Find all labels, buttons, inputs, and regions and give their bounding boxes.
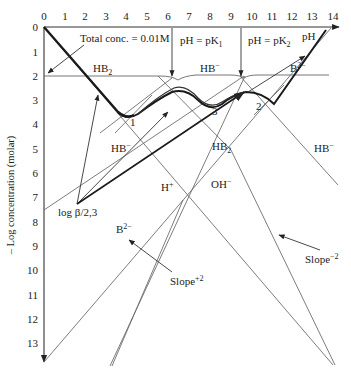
- y-axis-title: – Log concentration (molar): [5, 135, 17, 255]
- point-2-label: 2: [256, 100, 262, 112]
- x-tick: 7: [186, 10, 192, 22]
- y-tick: 0: [33, 21, 39, 33]
- x-tick: 11: [267, 10, 278, 22]
- hb2-mid-label: HB2: [212, 140, 231, 155]
- y-tick: 11: [27, 289, 38, 301]
- x-tick: 10: [247, 10, 259, 22]
- point-1-label: 1: [130, 116, 136, 128]
- y-tick: 5: [33, 143, 39, 155]
- slope-neg-label: Slope−2: [305, 252, 339, 265]
- y-tick: 1: [33, 46, 39, 58]
- x-tick: 9: [228, 10, 234, 22]
- x-tick: 2: [82, 10, 88, 22]
- hb2-line: [158, 76, 231, 150]
- slope-pos-label: Slope+2: [170, 274, 204, 287]
- log-concentration-diagram: 0 1 2 3 4 5 6 7 8 9 10 11 12 13 14 0 1 2…: [0, 0, 351, 376]
- hb-minus-top-label: HB−: [200, 61, 220, 74]
- y-tick: 13: [27, 337, 39, 349]
- y-tick: 4: [33, 118, 39, 130]
- y-tick: 6: [33, 167, 39, 179]
- y-tick: 9: [33, 240, 39, 252]
- total-conc-label: Total conc. = 0.01M: [80, 32, 170, 44]
- x-tick: 1: [62, 10, 68, 22]
- x-tick: 6: [165, 10, 171, 22]
- oh-minus-label: OH−: [211, 177, 232, 190]
- slope-neg-arrow: [279, 235, 320, 250]
- b2-minus-top-label: B2−: [290, 61, 306, 74]
- x-tick: 13: [307, 10, 319, 22]
- log-beta-arrow-1: [77, 95, 98, 204]
- h-plus-label: H+: [161, 180, 174, 193]
- log-beta-arrows: [77, 56, 305, 204]
- y-tick: 8: [33, 216, 39, 228]
- x-tick: 14: [328, 10, 340, 22]
- ph-axis-label: pH: [302, 30, 316, 42]
- x-tick: 0: [41, 10, 47, 22]
- pk1-label: pH = pK1: [180, 34, 223, 49]
- x-tick: 12: [287, 10, 298, 22]
- hb2-top-label: HB2: [93, 62, 112, 77]
- y-tick: 12: [27, 313, 38, 325]
- x-tick: 5: [144, 10, 150, 22]
- x-tick: 8: [207, 10, 213, 22]
- point-3-label: 3: [212, 105, 218, 117]
- y-tick: 7: [33, 191, 39, 203]
- pk2-label: pH = pK2: [248, 34, 291, 49]
- y-tick: 10: [27, 264, 39, 276]
- y-axis-ticks: 0 1 2 3 4 5 6 7 8 9 10 11 12 13: [27, 21, 39, 349]
- total-conc-arrow: [48, 45, 84, 73]
- log-beta-label: log β/2,3: [58, 206, 98, 218]
- y-tick: 3: [33, 94, 39, 106]
- y-tick: 2: [33, 70, 39, 82]
- x-axis-ticks: 0 1 2 3 4 5 6 7 8 9 10 11 12 13 14: [41, 10, 339, 22]
- hb-minus-right-label: HB−: [314, 141, 334, 154]
- b2-minus-low-label: B2−: [116, 222, 132, 235]
- x-tick: 3: [103, 10, 109, 22]
- x-tick: 4: [123, 10, 129, 22]
